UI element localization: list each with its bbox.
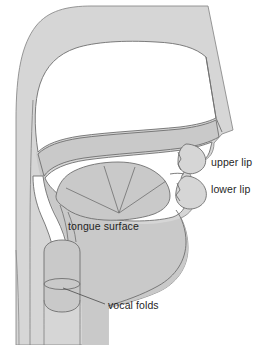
label-upper-lip: upper lip (211, 157, 252, 169)
label-tongue-surface: tongue surface (68, 221, 139, 233)
lower-lip-shape (176, 176, 207, 209)
diagram-canvas: upper lip lower lip tongue surface vocal… (0, 0, 279, 345)
larynx (44, 240, 80, 312)
vocal-tract-diagram (0, 0, 279, 345)
label-lower-lip: lower lip (211, 184, 250, 196)
label-vocal-folds: vocal folds (108, 300, 159, 312)
